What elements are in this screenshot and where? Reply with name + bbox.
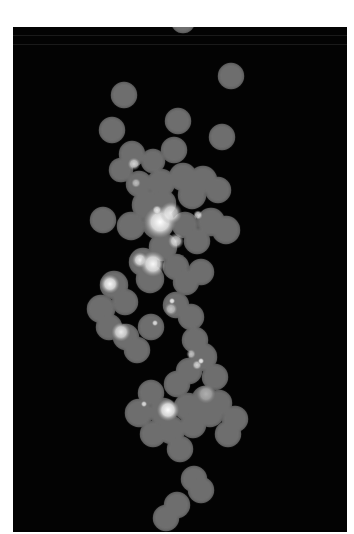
- particle-disc: [219, 64, 243, 88]
- particle-disc: [125, 338, 149, 362]
- bright-spot: [196, 384, 215, 403]
- bright-spot: [186, 349, 196, 359]
- particle-disc: [141, 422, 165, 446]
- particle-disc: [216, 422, 240, 446]
- particle-disc: [168, 437, 192, 461]
- particle-disc: [100, 118, 124, 142]
- bright-spot: [169, 298, 175, 304]
- particle-disc: [165, 372, 189, 396]
- bright-spot: [193, 210, 203, 220]
- bright-spot: [140, 251, 166, 277]
- bright-spot: [100, 274, 119, 293]
- particle-disc: [162, 138, 186, 162]
- particle-disc: [179, 182, 205, 208]
- particle-disc: [179, 305, 203, 329]
- particle-disc: [154, 506, 178, 530]
- bright-spot: [131, 178, 141, 188]
- particle-disc: [139, 315, 163, 339]
- particle-disc: [189, 478, 213, 502]
- particle-disc: [113, 290, 137, 314]
- bright-spot: [168, 233, 184, 249]
- particle-disc: [189, 260, 213, 284]
- micrograph-frame: [13, 27, 347, 532]
- particle-disc: [213, 217, 239, 243]
- bright-spot: [157, 399, 179, 421]
- bright-spot: [165, 303, 178, 316]
- particle-disc: [185, 229, 209, 253]
- particle-disc: [112, 83, 136, 107]
- bright-spot: [128, 158, 141, 171]
- particle-disc: [126, 400, 152, 426]
- particle-disc: [91, 208, 115, 232]
- bright-spot: [160, 202, 182, 224]
- bright-spot: [141, 401, 147, 407]
- particle-cluster-image: [13, 27, 347, 532]
- bright-spot: [198, 358, 204, 364]
- particle-disc: [142, 150, 164, 172]
- particle-disc: [181, 413, 205, 437]
- particle-disc: [206, 178, 230, 202]
- bright-spot: [111, 322, 130, 341]
- particle-disc: [118, 213, 144, 239]
- particle-disc: [166, 109, 190, 133]
- particle-disc: [210, 125, 234, 149]
- bright-spot: [152, 320, 158, 326]
